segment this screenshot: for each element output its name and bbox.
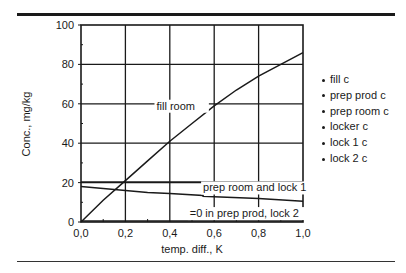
x-axis-title: temp. diff., K	[161, 243, 223, 255]
legend-item: fill c	[322, 72, 389, 88]
x-tick-label: 0,4	[162, 227, 177, 239]
bullet-icon	[322, 142, 325, 145]
x-tick-label: 0,8	[251, 227, 266, 239]
bullet-icon	[322, 79, 325, 82]
legend-item: lock 1 c	[322, 135, 389, 151]
legend-label: fill c	[330, 73, 349, 85]
legend-label: lock 1 c	[330, 136, 367, 148]
legend: fill c prep prod c prep room c locker c …	[322, 72, 389, 167]
y-axis-title: Conc., mg/kg	[20, 92, 32, 157]
bullet-icon	[322, 94, 325, 97]
x-tick-label: 0,6	[207, 227, 222, 239]
x-tick-label: 0,2	[118, 227, 133, 239]
legend-item: prep room c	[322, 104, 389, 120]
legend-item: prep prod c	[322, 88, 389, 104]
legend-item: locker c	[322, 119, 389, 135]
annotation-label: fill room	[156, 100, 195, 112]
y-tick-label: 40	[62, 137, 74, 149]
annotation-label: prep room and lock 1	[203, 181, 306, 193]
x-tick-label: 1,0	[295, 227, 310, 239]
legend-label: prep prod c	[330, 89, 386, 101]
y-tick-label: 20	[62, 177, 74, 189]
bullet-icon	[322, 110, 325, 113]
legend-label: lock 2 c	[330, 152, 367, 164]
legend-label: prep room c	[330, 105, 389, 117]
legend-item: lock 2 c	[322, 151, 389, 167]
annotations: fill roomprep room and lock 1=0 in prep …	[154, 100, 320, 220]
y-tick-label: 60	[62, 98, 74, 110]
y-tick-label: 80	[62, 58, 74, 70]
legend-label: locker c	[330, 120, 368, 132]
bullet-icon	[322, 158, 325, 161]
x-tick-label: 0,0	[73, 227, 88, 239]
bullet-icon	[322, 126, 325, 129]
ticks: 0,00,20,40,60,81,0020406080100	[56, 19, 311, 239]
y-tick-label: 0	[68, 216, 74, 228]
series-group	[81, 53, 303, 222]
y-tick-label: 100	[56, 19, 74, 31]
annotation-label: =0 in prep prod, lock 2	[190, 207, 299, 219]
series-line-fill-room	[81, 53, 303, 222]
